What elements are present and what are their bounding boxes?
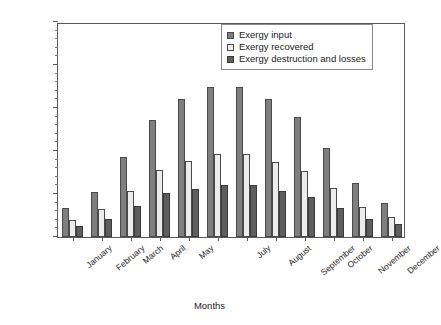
bar-december-series2 [395, 224, 402, 237]
bar-may-series1 [185, 161, 192, 237]
x-axis-label-may: May [196, 243, 215, 261]
legend-swatch-icon [227, 32, 234, 39]
legend-label: Exergy input [239, 29, 292, 41]
x-axis-label-april: April [167, 243, 186, 262]
y-axis-minor-tick [55, 227, 58, 228]
legend-item-2: Exergy destruction and losses [227, 53, 366, 65]
legend-swatch-icon [227, 44, 234, 51]
y-axis-minor-tick [55, 47, 58, 48]
legend-item-1: Exergy recovered [227, 41, 366, 53]
y-axis-minor-tick [55, 141, 58, 142]
y-axis-major-tick [53, 193, 58, 194]
bar-march-series1 [127, 191, 134, 237]
y-axis-minor-tick [55, 90, 58, 91]
y-axis-minor-tick [55, 73, 58, 74]
bar-november-series1 [359, 207, 366, 237]
bar-january-series1 [69, 220, 76, 237]
bar-april-series1 [156, 170, 163, 237]
bar-july-series2 [250, 185, 257, 237]
x-axis-label-august: August [286, 243, 313, 268]
bar-january-series2 [76, 226, 83, 237]
y-axis-major-tick [53, 21, 58, 22]
bar-february-series1 [98, 209, 105, 237]
bar-october-series2 [337, 208, 344, 237]
y-axis-minor-tick [55, 159, 58, 160]
y-axis-minor-tick [55, 81, 58, 82]
bar-august-series0 [265, 99, 272, 237]
x-axis-label-july: July [254, 243, 272, 260]
y-axis-minor-tick [55, 133, 58, 134]
x-axis-title: Months [0, 300, 419, 311]
x-axis-tick [247, 237, 248, 241]
x-axis-tick [189, 237, 190, 241]
bar-october-series1 [330, 188, 337, 237]
bar-april-series2 [163, 193, 170, 237]
legend-swatch-icon [227, 56, 234, 63]
y-axis-minor-tick [55, 176, 58, 177]
x-axis-tick [276, 237, 277, 241]
bar-november-series2 [366, 219, 373, 237]
bar-november-series0 [352, 183, 359, 237]
x-axis-tick [218, 237, 219, 241]
y-axis-minor-tick [55, 98, 58, 99]
x-axis-tick [73, 237, 74, 241]
y-axis-minor-tick [55, 167, 58, 168]
y-axis-minor-tick [55, 184, 58, 185]
bar-june-series1 [214, 154, 221, 237]
bar-september-series0 [294, 117, 301, 237]
y-axis-minor-tick [55, 202, 58, 203]
y-axis-minor-tick [55, 210, 58, 211]
x-axis-tick [363, 237, 364, 241]
x-axis-tick [160, 237, 161, 241]
x-axis-tick [334, 237, 335, 241]
bar-may-series0 [178, 99, 185, 237]
y-axis-major-tick [53, 236, 58, 237]
y-axis-minor-tick [55, 38, 58, 39]
bar-september-series2 [308, 197, 315, 237]
y-axis-minor-tick [55, 30, 58, 31]
chart-legend: Exergy inputExergy recoveredExergy destr… [221, 24, 373, 70]
bar-april-series0 [149, 120, 156, 237]
y-axis-minor-tick [55, 55, 58, 56]
bar-may-series2 [192, 189, 199, 237]
y-axis-minor-tick [55, 219, 58, 220]
bar-july-series0 [236, 87, 243, 238]
y-axis-major-tick [53, 64, 58, 65]
x-axis-tick [102, 237, 103, 241]
x-axis-tick [131, 237, 132, 241]
y-axis-major-tick [53, 150, 58, 151]
bar-june-series0 [207, 87, 214, 238]
legend-label: Exergy recovered [239, 41, 313, 53]
bar-march-series2 [134, 206, 141, 237]
x-axis-tick [305, 237, 306, 241]
bar-july-series1 [243, 154, 250, 237]
bar-march-series0 [120, 157, 127, 237]
legend-label: Exergy destruction and losses [239, 53, 366, 65]
bar-august-series2 [279, 191, 286, 237]
bar-september-series1 [301, 171, 308, 237]
y-axis-major-tick [53, 107, 58, 108]
bar-february-series0 [91, 192, 98, 237]
legend-item-0: Exergy input [227, 29, 366, 41]
x-axis-tick [392, 237, 393, 241]
x-axis-label-january: January [84, 243, 114, 270]
bar-august-series1 [272, 162, 279, 237]
bar-june-series2 [221, 185, 228, 237]
bar-october-series0 [323, 148, 330, 237]
y-axis-minor-tick [55, 116, 58, 117]
bar-december-series1 [388, 217, 395, 237]
bar-february-series2 [105, 219, 112, 237]
bar-january-series0 [62, 208, 69, 237]
y-axis-minor-tick [55, 124, 58, 125]
bar-december-series0 [381, 203, 388, 237]
